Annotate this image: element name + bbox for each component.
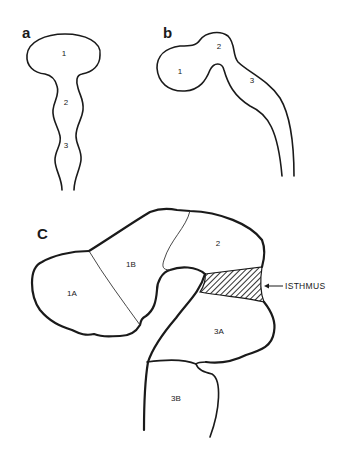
boundary-3a-3b-connector [196, 362, 206, 364]
isthmus-label: ISTHMUS [285, 281, 325, 291]
panel-a-region-1: 1 [62, 49, 67, 58]
arrow-left-icon [264, 284, 269, 289]
panel-a-label: a [22, 24, 31, 41]
boundary-3a-3b [147, 360, 219, 437]
panel-b-region-3: 3 [250, 76, 255, 85]
panel-c-region-3a: 3A [214, 327, 224, 336]
panel-c-region-1b: 1B [126, 260, 136, 269]
brain-vesicle-diagram: a 1 2 3 b 1 2 3 C 1A 1B 2 3A [0, 0, 344, 454]
panel-c-label: C [37, 225, 48, 242]
panel-a-region-3: 3 [64, 141, 69, 150]
forebrain-top-outline [89, 209, 264, 267]
brainstem-left-edge [144, 274, 205, 430]
isthmus-callout: ISTHMUS [264, 281, 325, 291]
isthmus-hatched-region [200, 267, 264, 302]
panel-c-outer-outline [32, 251, 205, 337]
panel-c-region-1a: 1A [67, 289, 77, 298]
panel-b: b 1 2 3 [157, 24, 294, 176]
panel-b-region-1: 1 [178, 67, 183, 76]
panel-a-region-2: 2 [64, 98, 69, 107]
panel-b-outline [157, 33, 294, 176]
panel-c-region-2: 2 [216, 239, 221, 248]
panel-c-region-3b: 3B [171, 394, 181, 403]
panel-a: a 1 2 3 [22, 24, 100, 190]
boundary-1b-2 [163, 211, 190, 270]
panel-b-region-2: 2 [217, 42, 222, 51]
panel-b-label: b [163, 24, 172, 41]
panel-c: C 1A 1B 2 3A 3B ISTHMUS [32, 209, 325, 437]
